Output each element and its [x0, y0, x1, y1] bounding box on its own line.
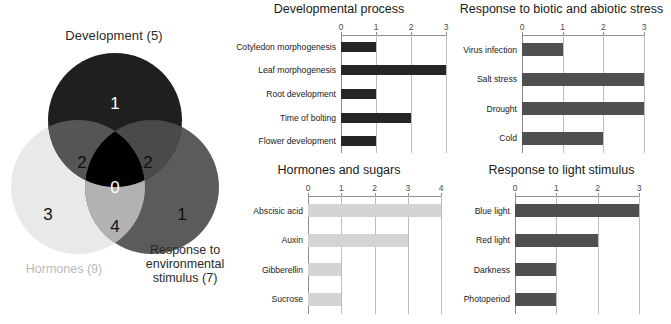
- bar: [522, 73, 644, 86]
- venn-svg: 1 2 2 0 3 4 1: [10, 48, 220, 260]
- bar: [515, 234, 598, 247]
- category-label: Sucrose: [271, 294, 303, 304]
- gridline-3: [446, 35, 447, 153]
- tick-mark-3: [446, 32, 447, 35]
- venn-count-hormones-environment: 4: [110, 217, 119, 236]
- venn-label-environment-line-2: environmental: [142, 257, 228, 271]
- category-label: Gibberellin: [262, 265, 303, 275]
- plot-area: 0123Blue lightRed lightDarknessPhotoperi…: [515, 196, 639, 314]
- category-label: Red light: [476, 235, 510, 245]
- tick-mark-2: [603, 32, 604, 35]
- x-tick-label: 1: [339, 183, 344, 193]
- chart-title: Response to light stimulus: [452, 163, 671, 177]
- gridline-2: [411, 35, 412, 153]
- bar: [341, 65, 446, 75]
- x-tick-label: 1: [374, 22, 379, 32]
- venn-count-development-environment: 2: [143, 153, 152, 172]
- bar: [341, 136, 376, 146]
- x-tick-label: 1: [554, 183, 559, 193]
- gridline-3: [639, 196, 640, 314]
- x-tick-label: 0: [520, 22, 525, 32]
- venn-label-development: Development (5): [0, 28, 228, 43]
- bar: [308, 293, 341, 306]
- chart-title: Developmental process: [228, 2, 450, 16]
- gridline-2: [603, 35, 604, 153]
- venn-label-environment-line-1: Response to: [142, 243, 228, 257]
- category-label: Leaf morphogenesis: [258, 65, 336, 75]
- tick-mark-1: [563, 32, 564, 35]
- venn-count-hormones-only: 3: [43, 205, 52, 224]
- tick-mark-0: [522, 32, 523, 35]
- venn-stage: 1 2 2 0 3 4 1: [10, 48, 220, 260]
- bar: [522, 43, 563, 56]
- venn-count-development-hormones: 2: [77, 153, 86, 172]
- bar: [308, 234, 408, 247]
- x-tick-label: 2: [372, 183, 377, 193]
- venn-label-environment-line-3: stimulus (7): [142, 271, 228, 285]
- category-label: Abscisic acid: [253, 206, 303, 216]
- tick-mark-1: [341, 193, 342, 196]
- plot-area: 01234Abscisic acidAuxinGibberellinSucros…: [308, 196, 441, 314]
- venn-label-hormones: Hormones (9): [0, 262, 128, 276]
- x-tick-label: 0: [339, 22, 344, 32]
- tick-mark-3: [408, 193, 409, 196]
- bar: [515, 204, 639, 217]
- category-label: Root development: [266, 89, 336, 99]
- bar: [515, 293, 556, 306]
- tick-mark-0: [515, 193, 516, 196]
- category-label: Blue light: [475, 206, 510, 216]
- venn-count-environment-only: 1: [177, 205, 186, 224]
- tick-mark-2: [411, 32, 412, 35]
- category-label: Virus infection: [463, 45, 517, 55]
- category-label: Time of bolting: [280, 113, 336, 123]
- tick-mark-0: [341, 32, 342, 35]
- venn-diagram-panel: Development (5): [0, 0, 228, 324]
- venn-label-environment: Response to environmental stimulus (7): [142, 243, 228, 285]
- plot-area: 0123Virus infectionSalt stressDroughtCol…: [522, 35, 644, 153]
- gridline-3: [644, 35, 645, 153]
- tick-mark-0: [308, 193, 309, 196]
- bar: [308, 204, 441, 217]
- chart-response-to-light-stimulus: Response to light stimulus 0123Blue ligh…: [452, 163, 671, 323]
- venn-count-development-only: 1: [110, 94, 119, 113]
- x-tick-label: 4: [439, 183, 444, 193]
- chart-response-to-biotic-and-abiotic-stress: Response to biotic and abiotic stress 01…: [452, 2, 671, 162]
- category-label: Drought: [486, 104, 517, 114]
- category-label: Darkness: [474, 265, 510, 275]
- x-tick-label: 2: [409, 22, 414, 32]
- bar: [341, 42, 376, 52]
- chart-title: Response to biotic and abiotic stress: [452, 2, 671, 16]
- tick-mark-1: [376, 32, 377, 35]
- x-axis-line: [522, 35, 644, 36]
- category-label: Auxin: [282, 235, 304, 245]
- bar: [341, 113, 411, 123]
- bar: [522, 102, 644, 115]
- chart-developmental-process: Developmental process 0123Cotyledon morp…: [228, 2, 450, 162]
- bar: [515, 263, 556, 276]
- x-tick-label: 2: [601, 22, 606, 32]
- x-tick-label: 3: [637, 183, 642, 193]
- x-tick-label: 3: [405, 183, 410, 193]
- x-tick-label: 0: [513, 183, 518, 193]
- tick-mark-2: [598, 193, 599, 196]
- tick-mark-3: [639, 193, 640, 196]
- category-label: Cotyledon morphogenesis: [236, 42, 336, 52]
- x-tick-label: 3: [642, 22, 647, 32]
- tick-mark-3: [644, 32, 645, 35]
- x-tick-label: 2: [595, 183, 600, 193]
- category-label: Salt stress: [477, 74, 517, 84]
- tick-mark-4: [441, 193, 442, 196]
- bar: [522, 132, 603, 145]
- chart-hormones-and-sugars: Hormones and sugars 01234Abscisic acidAu…: [228, 163, 450, 323]
- x-tick-label: 3: [444, 22, 449, 32]
- category-label: Photoperiod: [464, 294, 510, 304]
- chart-title: Hormones and sugars: [228, 163, 450, 177]
- gridline-1: [376, 35, 377, 153]
- bar: [341, 89, 376, 99]
- x-axis-line: [341, 35, 446, 36]
- gridline-4: [441, 196, 442, 314]
- category-label: Cold: [499, 133, 517, 143]
- x-tick-label: 1: [560, 22, 565, 32]
- plot-area: 0123Cotyledon morphogenesisLeaf morphoge…: [341, 35, 446, 153]
- venn-count-all-three: 0: [110, 178, 119, 197]
